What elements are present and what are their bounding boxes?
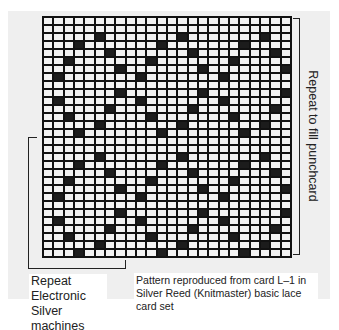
- blank-cell: [188, 57, 198, 65]
- blank-cell: [115, 81, 125, 89]
- blank-cell: [208, 129, 218, 137]
- blank-cell: [260, 209, 270, 217]
- blank-cell: [74, 177, 84, 185]
- blank-cell: [260, 129, 270, 137]
- blank-cell: [146, 201, 156, 209]
- blank-cell: [64, 129, 74, 137]
- blank-cell: [74, 49, 84, 57]
- blank-cell: [167, 137, 177, 145]
- blank-cell: [126, 169, 136, 177]
- punched-cell: [53, 217, 63, 225]
- blank-cell: [43, 73, 53, 81]
- blank-cell: [43, 65, 53, 73]
- blank-cell: [157, 105, 167, 113]
- blank-cell: [105, 17, 115, 25]
- blank-cell: [157, 169, 167, 177]
- blank-cell: [115, 169, 125, 177]
- punched-cell: [64, 113, 74, 121]
- blank-cell: [126, 137, 136, 145]
- blank-cell: [167, 209, 177, 217]
- blank-cell: [239, 217, 249, 225]
- blank-cell: [167, 97, 177, 105]
- blank-cell: [250, 137, 260, 145]
- electronic-repeat-caption: Repeat Electronic Silver machines: [29, 274, 107, 330]
- blank-cell: [157, 185, 167, 193]
- blank-cell: [126, 121, 136, 129]
- blank-cell: [188, 121, 198, 129]
- punched-cell: [260, 33, 270, 41]
- punched-cell: [188, 49, 198, 57]
- blank-cell: [281, 225, 291, 233]
- blank-cell: [198, 225, 208, 233]
- blank-cell: [43, 249, 53, 257]
- blank-cell: [188, 145, 198, 153]
- blank-cell: [177, 193, 187, 201]
- blank-cell: [126, 241, 136, 249]
- blank-cell: [177, 129, 187, 137]
- blank-cell: [250, 209, 260, 217]
- blank-cell: [146, 225, 156, 233]
- blank-cell: [95, 145, 105, 153]
- blank-cell: [95, 249, 105, 257]
- blank-cell: [64, 169, 74, 177]
- blank-cell: [84, 185, 94, 193]
- blank-cell: [157, 177, 167, 185]
- blank-cell: [84, 89, 94, 97]
- caption-line: card set: [136, 300, 316, 313]
- punched-cell: [157, 249, 167, 257]
- punched-cell: [229, 233, 239, 241]
- blank-cell: [198, 193, 208, 201]
- blank-cell: [146, 161, 156, 169]
- blank-cell: [208, 57, 218, 65]
- blank-cell: [270, 41, 280, 49]
- blank-cell: [167, 113, 177, 121]
- blank-cell: [239, 97, 249, 105]
- blank-cell: [260, 193, 270, 201]
- punched-cell: [260, 241, 270, 249]
- blank-cell: [208, 113, 218, 121]
- blank-cell: [115, 17, 125, 25]
- blank-cell: [43, 25, 53, 33]
- blank-cell: [43, 49, 53, 57]
- blank-cell: [229, 129, 239, 137]
- blank-cell: [208, 233, 218, 241]
- blank-cell: [84, 65, 94, 73]
- blank-cell: [167, 169, 177, 177]
- blank-cell: [198, 97, 208, 105]
- blank-cell: [219, 49, 229, 57]
- blank-cell: [84, 113, 94, 121]
- blank-cell: [126, 225, 136, 233]
- blank-cell: [188, 161, 198, 169]
- blank-cell: [95, 57, 105, 65]
- blank-cell: [229, 97, 239, 105]
- blank-cell: [229, 33, 239, 41]
- source-caption: Pattern reproduced from card L–1 in Silv…: [134, 273, 318, 315]
- blank-cell: [157, 65, 167, 73]
- blank-cell: [188, 217, 198, 225]
- blank-cell: [219, 121, 229, 129]
- blank-cell: [208, 145, 218, 153]
- blank-cell: [219, 161, 229, 169]
- blank-cell: [188, 201, 198, 209]
- blank-cell: [64, 41, 74, 49]
- blank-cell: [53, 241, 63, 249]
- blank-cell: [95, 17, 105, 25]
- blank-cell: [198, 121, 208, 129]
- blank-cell: [188, 249, 198, 257]
- blank-cell: [198, 161, 208, 169]
- blank-cell: [177, 201, 187, 209]
- blank-cell: [136, 185, 146, 193]
- blank-cell: [157, 137, 167, 145]
- punched-cell: [105, 169, 115, 177]
- blank-cell: [126, 97, 136, 105]
- blank-cell: [146, 249, 156, 257]
- blank-cell: [167, 161, 177, 169]
- blank-cell: [105, 65, 115, 73]
- blank-cell: [64, 193, 74, 201]
- blank-cell: [146, 41, 156, 49]
- blank-cell: [250, 241, 260, 249]
- blank-cell: [53, 161, 63, 169]
- blank-cell: [270, 81, 280, 89]
- blank-cell: [250, 105, 260, 113]
- blank-cell: [281, 57, 291, 65]
